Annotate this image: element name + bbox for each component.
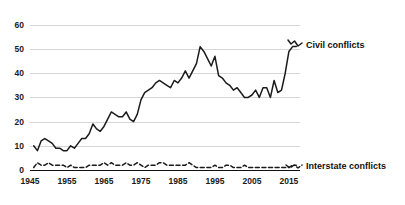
y-axis-tick-label: 0 <box>19 165 24 175</box>
x-axis-tick-label: 1985 <box>168 176 187 186</box>
y-axis-tick-labels: 0102030405060 <box>15 20 25 175</box>
legend-label-civil: Civil conflicts <box>306 40 365 50</box>
legend-label-interstate: Interstate conflicts <box>306 161 386 171</box>
x-axis-tick-label: 1975 <box>131 176 150 186</box>
chart-canvas: 0102030405060 19451955196519751985199520… <box>0 0 405 205</box>
series-line-interstate-conflicts <box>34 163 297 168</box>
series-line-civil-conflicts <box>34 47 297 151</box>
y-axis-tick-label: 10 <box>15 141 25 151</box>
x-axis-tick-label: 2015 <box>279 176 298 186</box>
legend-swatch-interstate-icon <box>286 165 302 168</box>
y-axis-tick-label: 60 <box>15 20 25 30</box>
x-axis-tick-label: 1965 <box>95 176 114 186</box>
x-axis-tick-labels: 19451955196519751985199520052015 <box>21 176 299 186</box>
legend-swatch-civil-icon <box>288 40 302 46</box>
y-axis-tick-label: 40 <box>15 68 25 78</box>
x-axis-tick-label: 1945 <box>21 176 40 186</box>
x-axis-tick-label: 2005 <box>242 176 261 186</box>
y-axis-tick-label: 50 <box>15 44 25 54</box>
y-axis-tick-label: 30 <box>15 92 25 102</box>
x-axis-tick-label: 1995 <box>205 176 224 186</box>
y-axis-tick-label: 20 <box>15 117 25 127</box>
x-axis-tick-label: 1955 <box>58 176 77 186</box>
conflicts-line-chart: 0102030405060 19451955196519751985199520… <box>0 0 405 205</box>
